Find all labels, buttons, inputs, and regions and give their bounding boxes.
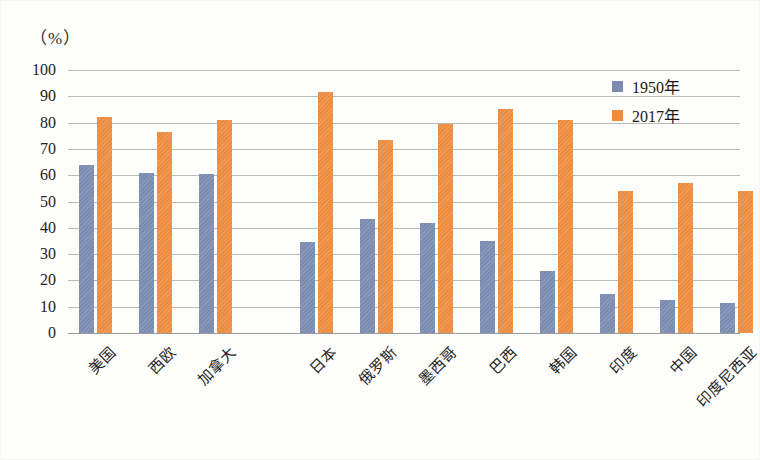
bar-2017	[378, 140, 393, 333]
legend-label-2017: 2017年	[632, 103, 680, 127]
y-axis-tick-label: 0	[48, 324, 56, 342]
bar-2017	[318, 92, 333, 333]
bar-1950	[420, 223, 435, 333]
bar-2017	[498, 109, 513, 333]
x-axis-category-label: 墨西哥	[413, 341, 461, 389]
y-axis-tick-label: 20	[40, 271, 56, 289]
y-axis-tick-label: 90	[40, 87, 56, 105]
bar-2017	[738, 191, 753, 333]
bar-2017	[217, 120, 232, 333]
bar-1950	[600, 294, 615, 333]
bar-1950	[660, 300, 675, 333]
legend-label-1950: 1950年	[632, 74, 680, 98]
x-axis-category-label: 印度	[604, 341, 641, 378]
x-axis-category-label: 中国	[664, 341, 701, 378]
x-axis-category-label: 俄罗斯	[353, 341, 401, 389]
x-axis-category-label: 巴西	[484, 341, 521, 378]
bar-1950	[540, 271, 555, 333]
y-axis: 0102030405060708090100	[0, 70, 62, 333]
legend-swatch-icon-1950	[612, 81, 623, 92]
bar-2017	[157, 132, 172, 333]
bar-1950	[300, 242, 315, 333]
bar-2017	[558, 120, 573, 333]
bar-2017	[438, 124, 453, 333]
y-axis-tick-label: 10	[40, 298, 56, 316]
y-axis-tick-label: 100	[32, 61, 56, 79]
x-axis-category-label: 西欧	[143, 341, 180, 378]
y-axis-tick-label: 50	[40, 193, 56, 211]
bar-2017	[97, 117, 112, 333]
chart-legend: 1950年 2017年	[612, 76, 680, 134]
y-axis-tick-label: 70	[40, 140, 56, 158]
bar-1950	[79, 165, 94, 333]
bar-1950	[360, 219, 375, 333]
x-axis-category-label: 日本	[304, 341, 341, 378]
legend-item-1950[interactable]: 1950年	[612, 76, 680, 96]
bar-1950	[480, 241, 495, 333]
x-axis-category-label: 美国	[83, 341, 120, 378]
y-axis-tick-label: 40	[40, 219, 56, 237]
bar-1950	[720, 303, 735, 333]
bar-1950	[139, 173, 154, 333]
bar-2017	[618, 191, 633, 333]
x-axis-category-label: 加拿大	[192, 341, 240, 389]
legend-swatch-icon-2017	[612, 110, 623, 121]
y-axis-tick-label: 30	[40, 245, 56, 263]
y-axis-tick-label: 80	[40, 114, 56, 132]
bar-1950	[199, 174, 214, 333]
legend-item-2017[interactable]: 2017年	[612, 105, 680, 125]
bar-2017	[678, 183, 693, 333]
y-axis-tick-label: 60	[40, 166, 56, 184]
x-axis-category-label: 印度尼西亚	[691, 341, 760, 411]
x-axis-labels: 美国西欧加拿大日本俄罗斯墨西哥巴西韩国印度中国印度尼西亚	[68, 333, 740, 460]
chart-container: （%） 0102030405060708090100 美国西欧加拿大日本俄罗斯墨…	[0, 0, 760, 460]
y-axis-unit-label: （%）	[30, 24, 81, 49]
x-axis-category-label: 韩国	[544, 341, 581, 378]
